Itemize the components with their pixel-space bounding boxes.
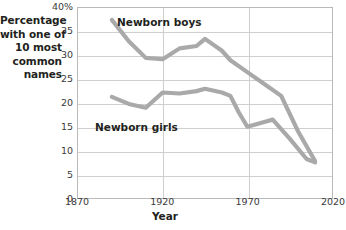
x-tick-label: 1920: [150, 196, 174, 207]
x-axis-tick-labels: 1870192019702020: [0, 196, 346, 210]
line-chart: Percentage with one of 10 most common na…: [0, 0, 346, 230]
x-tick-label: 1870: [65, 196, 89, 207]
y-tick-label: 5: [44, 170, 73, 180]
y-tick-label: 20: [44, 98, 73, 108]
y-tick-label: 15: [44, 122, 73, 132]
x-axis-title: Year: [0, 210, 330, 222]
x-tick-label: 2020: [321, 196, 345, 207]
y-tick-label: 30: [44, 50, 73, 60]
y-tick-label: 35: [44, 26, 73, 36]
y-tick-label: 10: [44, 146, 73, 156]
series-label-newborn-girls: Newborn girls: [95, 121, 178, 133]
x-tick-label: 1970: [236, 196, 260, 207]
y-tick-label: 25: [44, 74, 73, 84]
series-label-newborn-boys: Newborn boys: [117, 16, 201, 28]
plot-area: Newborn boys Newborn girls: [77, 7, 333, 199]
series-container: [78, 8, 332, 198]
y-tick-label: 40%: [44, 2, 73, 12]
